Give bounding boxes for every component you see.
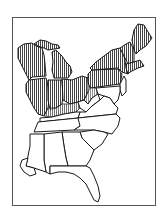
state-illinois xyxy=(26,78,49,116)
state-michigan-lower xyxy=(52,50,72,78)
state-pennsylvania xyxy=(88,69,122,88)
state-wisconsin xyxy=(18,43,46,80)
eastern-us-map xyxy=(0,0,168,216)
state-florida xyxy=(50,166,100,202)
state-maine xyxy=(132,24,152,54)
